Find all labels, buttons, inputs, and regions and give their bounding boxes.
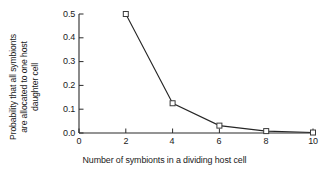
data-point-x10 — [311, 130, 316, 135]
plot-canvas — [79, 14, 313, 133]
plot-area — [79, 14, 313, 133]
x-tick-label-0: 0 — [66, 137, 92, 146]
series-line — [126, 14, 313, 133]
x-tick-label-2: 2 — [113, 137, 139, 146]
y-tick-label-0.2: 0.2 — [51, 81, 75, 90]
data-point-x8 — [264, 129, 269, 134]
y-axis-ticks — [79, 14, 84, 133]
x-axis-title: Number of symbionts in a dividing host c… — [0, 155, 329, 165]
chart-figure: Probability that all symbionts are alloc… — [0, 0, 329, 174]
data-point-x2 — [123, 12, 128, 17]
y-tick-label-0.4: 0.4 — [51, 33, 75, 42]
data-point-x6 — [217, 123, 222, 128]
y-axis-title-line-2: are allocated to one host — [19, 41, 30, 133]
y-axis-title: Probability that all symbionts are alloc… — [1, 14, 47, 160]
y-tick-label-0.3: 0.3 — [51, 57, 75, 66]
y-axis-title-line-3: daughter cell — [30, 63, 41, 111]
data-point-x4 — [170, 101, 175, 106]
x-tick-label-6: 6 — [206, 137, 232, 146]
x-axis-ticks — [79, 129, 313, 134]
x-tick-label-4: 4 — [159, 137, 185, 146]
y-tick-label-0.1: 0.1 — [51, 105, 75, 114]
y-axis-title-line-1: Probability that all symbionts — [8, 34, 19, 140]
y-tick-label-0.5: 0.5 — [51, 10, 75, 19]
series-markers — [123, 12, 315, 136]
x-tick-label-10: 10 — [300, 137, 326, 146]
x-tick-label-8: 8 — [253, 137, 279, 146]
